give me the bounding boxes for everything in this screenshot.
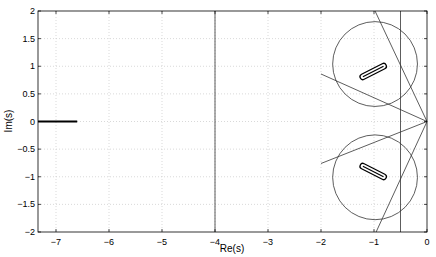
root-locus-plot: −7−6−5−4−3−2−10−2−1.5−1−0.500.511.52 Re(…	[0, 0, 436, 257]
y-tick-label: 1	[30, 61, 35, 71]
y-axis-label: Im(s)	[3, 110, 14, 133]
x-tick-label: −5	[157, 237, 167, 247]
grid-lines	[38, 11, 427, 232]
x-tick-label: −6	[104, 237, 114, 247]
x-tick-label: −4	[210, 237, 220, 247]
x-tick-label: −1	[369, 237, 379, 247]
y-tick-label: 0	[30, 117, 35, 127]
y-tick-label: 1.5	[22, 34, 35, 44]
y-tick-label: −1.5	[17, 199, 35, 209]
damping-ray	[321, 122, 427, 164]
region-circle	[333, 135, 418, 220]
axis-ticks: −7−6−5−4−3−2−10−2−1.5−1−0.500.511.52	[17, 6, 429, 247]
x-tick-label: −7	[51, 237, 61, 247]
x-tick-label: −3	[263, 237, 273, 247]
y-tick-label: 0.5	[22, 89, 35, 99]
y-tick-label: −1	[25, 172, 35, 182]
damping-ray	[321, 74, 427, 122]
y-tick-label: −2	[25, 227, 35, 237]
y-tick-label: −0.5	[17, 144, 35, 154]
x-tick-label: −2	[316, 237, 326, 247]
x-tick-label: 0	[424, 237, 429, 247]
y-tick-label: 2	[30, 6, 35, 16]
x-axis-label: Re(s)	[220, 243, 244, 254]
